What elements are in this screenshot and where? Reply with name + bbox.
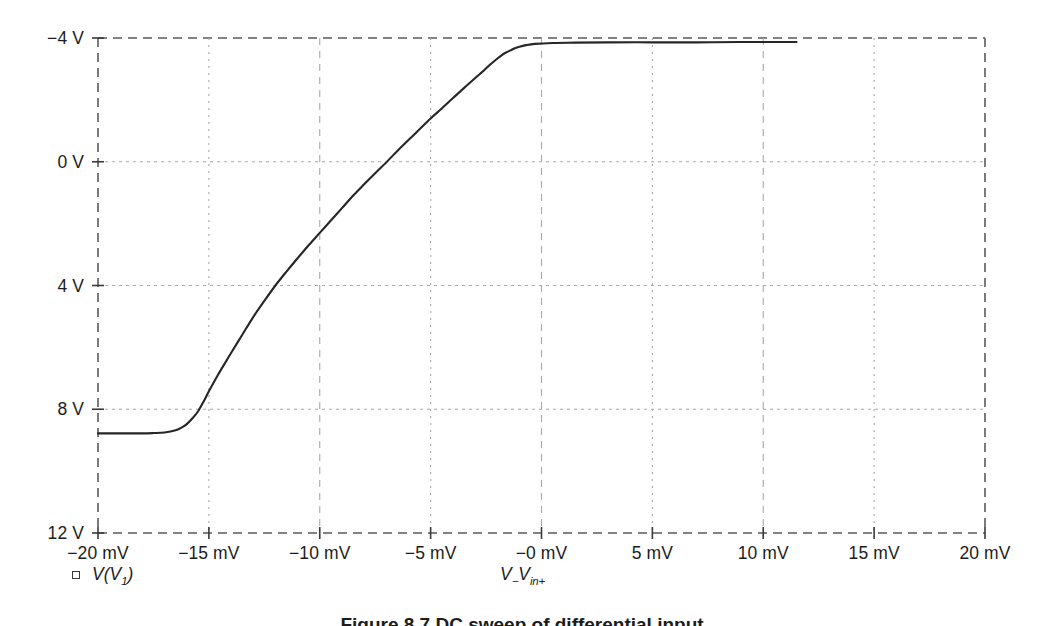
data-series-curve [98, 42, 797, 433]
x-tick-label: 15 mV [849, 543, 900, 564]
tick-marks [92, 38, 985, 539]
figure-container: 12 V8 V4 V0 V−4 V −20 mV−15 mV−10 mV−5 m… [0, 0, 1044, 626]
gridlines [98, 38, 985, 533]
x-tick-label: 10 mV [738, 543, 789, 564]
legend-marker-square-icon [72, 571, 80, 579]
figure-caption: Figure 8.7 DC sweep of differential inpu… [0, 614, 1044, 626]
x-tick-label: −10 mV [289, 543, 350, 564]
y-tick-label: −4 V [0, 28, 84, 49]
x-tick-label: −20 mV [67, 543, 128, 564]
x-tick-label: 20 mV [959, 543, 1010, 564]
chart-plot-area [0, 0, 1044, 626]
x-tick-label: −15 mV [178, 543, 239, 564]
x-tick-label: 5 mV [632, 543, 673, 564]
x-tick-label: −0 mV [516, 543, 568, 564]
y-tick-label: 4 V [0, 275, 84, 296]
y-tick-label: 0 V [0, 151, 84, 172]
y-tick-label: 8 V [0, 399, 84, 420]
x-tick-label: −5 mV [405, 543, 457, 564]
legend-series-label: V(V1) [92, 564, 133, 587]
y-tick-label: 12 V [0, 523, 84, 544]
x-axis-title: V−Vin+ [500, 564, 545, 587]
legend[interactable]: V(V1) [72, 564, 133, 587]
